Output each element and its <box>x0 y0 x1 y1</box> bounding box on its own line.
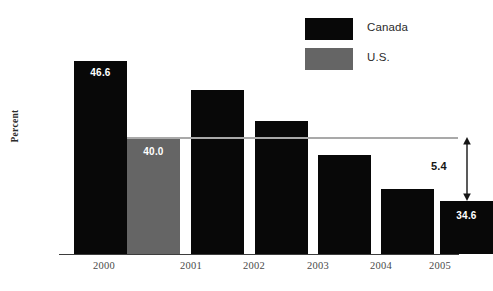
bar-label-canada-2005: 34.6 <box>440 210 493 221</box>
y-axis-title: Percent <box>10 96 20 156</box>
bar-canada-2000: 46.6 <box>74 61 127 254</box>
x-tick-label-2004: 2004 <box>351 260 411 271</box>
x-tick-label-2005: 2005 <box>410 260 470 271</box>
legend-swatch-canada <box>305 18 353 40</box>
bar-canada-2001 <box>191 90 244 254</box>
legend-swatch-us <box>305 48 353 70</box>
gap-annotation-5-4: 5.4 <box>447 137 487 201</box>
reference-line-40 <box>127 137 458 139</box>
bar-canada-2005: 34.6 <box>440 201 493 254</box>
plot-area: 46.6 40.0 34.6 5.4 <box>59 21 458 254</box>
gap-value-label: 5.4 <box>419 160 459 172</box>
bar-label-us-2000: 40.0 <box>127 146 180 157</box>
bar-canada-2002 <box>255 121 308 254</box>
x-axis-line <box>59 254 459 255</box>
legend-label-canada: Canada <box>367 21 408 33</box>
y-tick-30 <box>59 254 66 255</box>
x-tick-label-2003: 2003 <box>288 260 348 271</box>
x-tick-label-2002: 2002 <box>224 260 284 271</box>
legend-label-us: U.S. <box>367 51 390 63</box>
bar-canada-2004 <box>381 189 434 254</box>
bar-label-canada-2000: 46.6 <box>74 67 127 78</box>
bar-canada-2003 <box>318 155 371 254</box>
x-tick-label-2000: 2000 <box>74 260 134 271</box>
bar-us-2000: 40.0 <box>127 138 180 254</box>
x-tick-label-2001: 2001 <box>161 260 221 271</box>
